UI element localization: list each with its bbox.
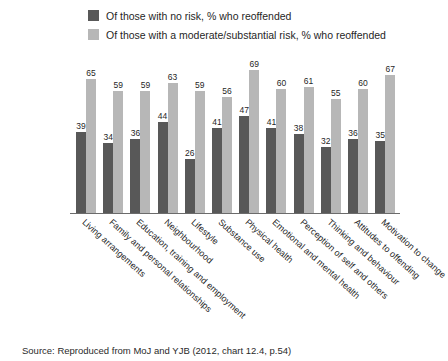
- bar-group: 3255: [321, 58, 342, 213]
- bar-no-risk: 26: [185, 159, 195, 213]
- bar-moderate-risk: 60: [276, 89, 286, 213]
- bar-group: 4769: [239, 58, 260, 213]
- bar-value-label: 60: [277, 79, 286, 88]
- bar-group: 3660: [348, 58, 369, 213]
- bar-moderate-risk: 65: [86, 79, 96, 213]
- bar-value-label: 26: [185, 149, 194, 158]
- bar-moderate-risk: 59: [195, 91, 205, 213]
- legend-label-moderate-risk: Of those with a moderate/substantial ris…: [106, 29, 386, 41]
- bar-group: 2659: [185, 58, 206, 213]
- bar-group: 3965: [76, 58, 97, 213]
- bar-moderate-risk: 56: [222, 97, 232, 213]
- bar-value-label: 41: [267, 118, 276, 127]
- bar-value-label: 55: [331, 89, 340, 98]
- bar-no-risk: 41: [212, 128, 222, 213]
- category-label: Neighbourhood: [162, 217, 214, 266]
- bar-group: 3459: [103, 58, 124, 213]
- source-caption: Source: Reproduced from MoJ and YJB (201…: [22, 345, 291, 356]
- bar-no-risk: 38: [294, 134, 304, 213]
- bar-value-label: 36: [131, 129, 140, 138]
- bar-group: 4156: [212, 58, 233, 213]
- chart-legend: Of those with no risk, % who reoffended …: [88, 6, 398, 44]
- bar-value-label: 61: [304, 77, 313, 86]
- bar-group: 3659: [130, 58, 151, 213]
- bar-no-risk: 41: [266, 128, 276, 213]
- bar-moderate-risk: 55: [331, 99, 341, 213]
- bar-value-label: 59: [113, 81, 122, 90]
- bar-value-label: 35: [375, 131, 384, 140]
- bar-no-risk: 36: [130, 139, 140, 213]
- bar-value-label: 47: [239, 106, 248, 115]
- chart-plot-area: 3965345936594463265941564769416038613255…: [70, 58, 400, 213]
- bar-value-label: 56: [222, 87, 231, 96]
- legend-item-moderate-risk: Of those with a moderate/substantial ris…: [88, 25, 398, 44]
- bar-value-label: 38: [294, 124, 303, 133]
- bar-value-label: 60: [358, 79, 367, 88]
- bar-value-label: 59: [195, 81, 204, 90]
- bar-value-label: 44: [158, 112, 167, 121]
- bar-value-label: 41: [212, 118, 221, 127]
- bar-no-risk: 35: [375, 141, 385, 213]
- legend-label-no-risk: Of those with no risk, % who reoffended: [106, 10, 291, 22]
- bar-moderate-risk: 63: [168, 83, 178, 213]
- legend-item-no-risk: Of those with no risk, % who reoffended: [88, 6, 398, 25]
- bar-no-risk: 34: [103, 143, 113, 213]
- bar-no-risk: 47: [239, 116, 249, 213]
- bar-value-label: 34: [103, 133, 112, 142]
- bar-no-risk: 32: [321, 147, 331, 213]
- legend-swatch-moderate-risk-icon: [88, 29, 99, 40]
- bar-no-risk: 39: [76, 132, 86, 213]
- category-label: Substance use: [216, 217, 267, 264]
- x-axis-category-labels: Living arrangementsFamily and personal r…: [0, 213, 408, 333]
- bar-value-label: 36: [348, 129, 357, 138]
- bar-group: 4160: [266, 58, 287, 213]
- bar-moderate-risk: 69: [249, 70, 259, 213]
- legend-swatch-no-risk-icon: [88, 10, 99, 21]
- bar-value-label: 69: [249, 60, 258, 69]
- bar-group: 3861: [294, 58, 315, 213]
- bar-value-label: 63: [168, 73, 177, 82]
- bar-moderate-risk: 59: [113, 91, 123, 213]
- bar-group: 4463: [158, 58, 179, 213]
- bar-moderate-risk: 61: [304, 87, 314, 213]
- bar-value-label: 32: [321, 137, 330, 146]
- bar-no-risk: 44: [158, 122, 168, 213]
- bar-value-label: 39: [76, 122, 85, 131]
- bar-value-label: 65: [86, 69, 95, 78]
- bar-moderate-risk: 67: [385, 75, 395, 213]
- bar-no-risk: 36: [348, 139, 358, 213]
- bar-moderate-risk: 59: [140, 91, 150, 213]
- bar-value-label: 67: [385, 65, 394, 74]
- bar-value-label: 59: [141, 81, 150, 90]
- bar-group: 3567: [375, 58, 396, 213]
- bar-moderate-risk: 60: [358, 89, 368, 213]
